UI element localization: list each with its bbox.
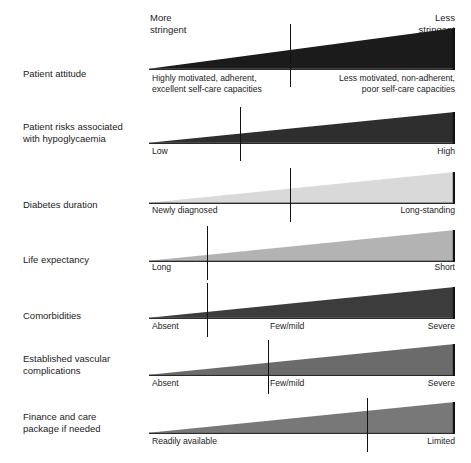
- treatment-target-stringency-diagram: More stringent Less stringent Patient at…: [0, 0, 471, 463]
- scale-label-start-patient-risks-hypoglycaemia: Low: [152, 146, 168, 157]
- wedge-triangle-finance-and-care-package: [149, 402, 455, 434]
- wedge-triangle-established-vascular-complications: [149, 344, 455, 376]
- wedge-triangle-diabetes-duration: [149, 172, 455, 204]
- wedge-triangle-patient-attitude: [149, 28, 455, 70]
- position-marker-finance-and-care-package[interactable]: [367, 398, 368, 452]
- row-label-comorbidities: Comorbidities: [23, 310, 147, 322]
- position-marker-patient-attitude[interactable]: [290, 24, 291, 87]
- row-label-patient-attitude: Patient attitude: [23, 68, 147, 80]
- scale-label-end-diabetes-duration: Long-standing: [401, 205, 455, 216]
- scale-label-mid-comorbidities: Few/mild: [270, 321, 304, 332]
- scale-label-end-finance-and-care-package: Limited: [427, 436, 455, 447]
- row-label-finance-and-care-package: Finance and care package if needed: [23, 411, 147, 435]
- scale-label-start-comorbidities: Absent: [152, 321, 179, 332]
- wedge-area-established-vascular-complications: [149, 344, 455, 376]
- position-marker-comorbidities[interactable]: [207, 283, 208, 337]
- scale-label-start-life-expectancy: Long: [152, 262, 171, 273]
- scale-label-start-diabetes-duration: Newly diagnosed: [152, 205, 217, 216]
- scale-label-start-finance-and-care-package: Readily available: [152, 436, 217, 447]
- wedge-area-patient-attitude: [149, 28, 455, 70]
- scale-label-end-comorbidities: Severe: [428, 321, 455, 332]
- row-label-established-vascular-complications: Established vascular complications: [23, 353, 147, 377]
- scale-label-mid-established-vascular-complications: Few/mild: [270, 378, 304, 389]
- row-label-life-expectancy: Life expectancy: [23, 254, 147, 266]
- row-label-diabetes-duration: Diabetes duration: [23, 199, 147, 211]
- scale-label-end-patient-risks-hypoglycaemia: High: [437, 146, 455, 157]
- scale-label-end-established-vascular-complications: Severe: [428, 378, 455, 389]
- wedge-triangle-patient-risks-hypoglycaemia: [149, 112, 455, 144]
- wedge-area-comorbidities: [149, 287, 455, 319]
- wedge-triangle-life-expectancy: [149, 230, 455, 262]
- wedge-area-life-expectancy: [149, 230, 455, 262]
- caption-left-patient-attitude: Highly motivated, adherent, excellent se…: [152, 73, 262, 95]
- wedge-area-diabetes-duration: [149, 172, 455, 204]
- wedge-area-finance-and-care-package: [149, 402, 455, 434]
- scale-label-end-life-expectancy: Short: [434, 262, 455, 273]
- row-label-patient-risks-hypoglycaemia: Patient risks associated with hypoglycae…: [23, 121, 147, 145]
- wedge-area-patient-risks-hypoglycaemia: [149, 112, 455, 144]
- position-marker-life-expectancy[interactable]: [207, 226, 208, 280]
- wedge-triangle-comorbidities: [149, 287, 455, 319]
- caption-right-patient-attitude: Less motivated, non-adherent, poor self-…: [339, 73, 455, 95]
- scale-label-start-established-vascular-complications: Absent: [152, 378, 179, 389]
- position-marker-patient-risks-hypoglycaemia[interactable]: [240, 107, 241, 161]
- position-marker-diabetes-duration[interactable]: [290, 168, 291, 222]
